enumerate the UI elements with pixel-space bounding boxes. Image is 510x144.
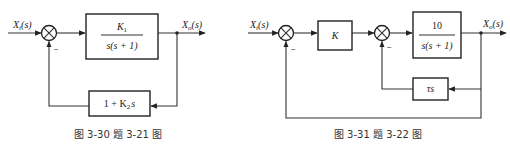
inner-feedback-block: τs — [413, 78, 448, 100]
input-label: Xi(s) — [12, 19, 32, 32]
figure-caption-left: 图 3-30 题 3-21 图 — [74, 129, 162, 140]
summing-junction-outer — [279, 26, 294, 41]
output-label: Xo(s) — [482, 18, 504, 31]
input-label: Xi(s) — [249, 19, 269, 32]
block-denominator: s(s + 1) — [106, 40, 138, 52]
output-label: Xo(s) — [181, 19, 203, 32]
minus-sign-inner: − — [387, 43, 392, 52]
gain-block: K — [318, 21, 352, 50]
summing-junction-inner — [375, 26, 390, 41]
forward-transfer-block: K1 s(s + 1) — [86, 14, 158, 59]
block-diagram-3-31: Xi(s) − K − 10 s(s + 1) — [248, 12, 506, 140]
minus-sign-outer: − — [291, 45, 296, 54]
feedback-transfer-block: 1 + K2s — [89, 91, 150, 116]
minus-sign: − — [54, 45, 59, 54]
inner-feedback-label: τs — [427, 83, 435, 94]
plant-numerator: 10 — [432, 20, 442, 31]
plant-denominator: s(s + 1) — [421, 40, 453, 52]
figure-caption-right: 图 3-31 题 3-22 图 — [334, 129, 422, 140]
block-diagram-3-30: Xi(s) − K1 s(s + 1) Xo(s) 1 + K2s 图 3-30 — [8, 14, 205, 140]
plant-transfer-block: 10 s(s + 1) — [413, 12, 461, 58]
summing-junction — [42, 26, 57, 41]
gain-label: K — [331, 30, 340, 41]
